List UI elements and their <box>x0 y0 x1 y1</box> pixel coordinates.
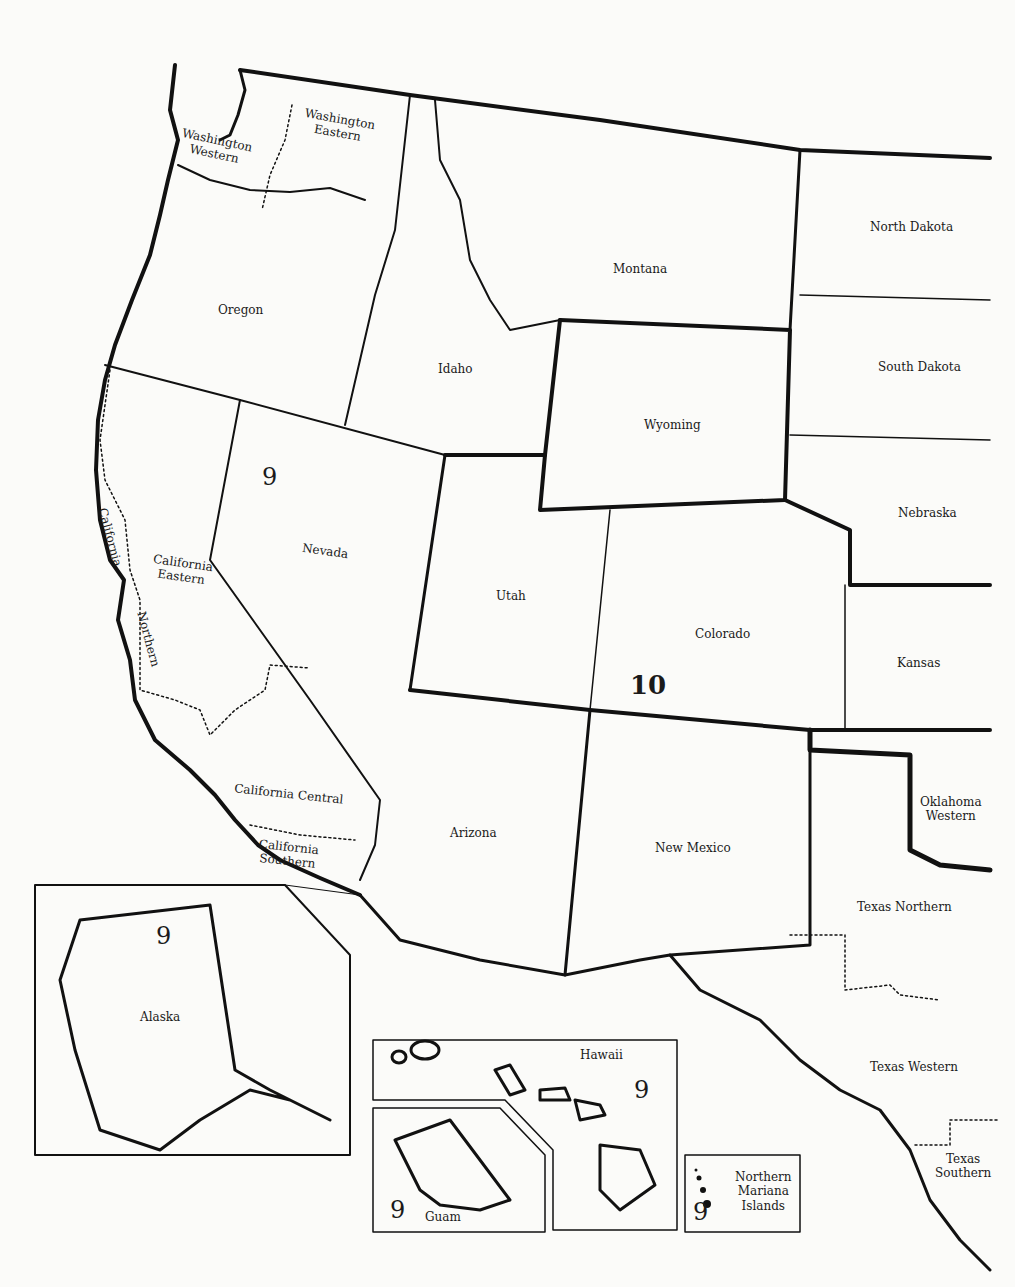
label-north-dakota: North Dakota <box>870 220 953 234</box>
label-oklahoma-western: Oklahoma Western <box>920 795 982 824</box>
label-utah: Utah <box>496 589 526 603</box>
label-northern-mariana-islands: Northern Mariana Islands <box>735 1170 792 1213</box>
circuit-number-9-guam: 9 <box>390 1198 405 1222</box>
circuit-number-9-alaska: 9 <box>156 924 171 948</box>
label-oregon: Oregon <box>218 303 263 317</box>
label-texas-northern: Texas Northern <box>857 900 952 914</box>
circuit-number-10-main: 10 <box>630 672 666 698</box>
label-hawaii: Hawaii <box>580 1048 623 1062</box>
label-south-dakota: South Dakota <box>878 360 961 374</box>
label-texas-southern: Texas Southern <box>935 1152 991 1181</box>
label-arizona: Arizona <box>450 826 497 840</box>
label-texas-western: Texas Western <box>870 1060 958 1074</box>
circuit-number-9-hawaii: 9 <box>634 1078 649 1102</box>
label-guam: Guam <box>425 1210 461 1224</box>
label-nebraska: Nebraska <box>898 506 957 520</box>
label-wyoming: Wyoming <box>644 418 701 432</box>
label-idaho: Idaho <box>438 362 473 376</box>
label-alaska: Alaska <box>140 1010 180 1024</box>
label-colorado: Colorado <box>695 627 750 641</box>
circuit-number-9-main: 9 <box>262 465 277 489</box>
label-montana: Montana <box>613 262 667 276</box>
circuit-number-9-nmi: 9 <box>693 1200 708 1224</box>
label-california-southern: California Southern <box>257 837 320 872</box>
label-kansas: Kansas <box>897 656 940 670</box>
label-new-mexico: New Mexico <box>655 841 731 855</box>
